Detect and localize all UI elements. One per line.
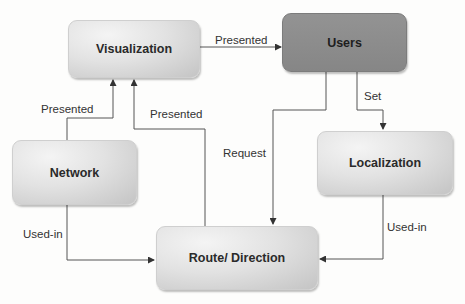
node-network: Network — [12, 140, 137, 205]
edge-label-presented: Presented — [150, 108, 202, 120]
edge-label-presented: Presented — [41, 103, 93, 115]
node-label: Network — [50, 166, 99, 180]
node-localization: Localization — [317, 131, 453, 195]
node-label: Localization — [349, 156, 421, 170]
node-visualization: Visualization — [68, 20, 200, 78]
edge-localization-route — [320, 195, 383, 259]
node-label: Visualization — [96, 42, 172, 56]
edge-network-route — [67, 205, 154, 260]
edge-label-set: Set — [364, 90, 381, 102]
edge-label-used-in: Used-in — [23, 228, 63, 240]
edge-route-visualization — [134, 80, 205, 226]
node-route-direction: Route/ Direction — [156, 226, 318, 290]
edge-label-presented: Presented — [215, 34, 267, 46]
node-label: Users — [327, 36, 362, 50]
edge-label-used-in: Used-in — [387, 221, 427, 233]
edge-label-request: Request — [223, 147, 266, 159]
node-label: Route/ Direction — [189, 251, 286, 265]
node-users: Users — [282, 13, 407, 72]
